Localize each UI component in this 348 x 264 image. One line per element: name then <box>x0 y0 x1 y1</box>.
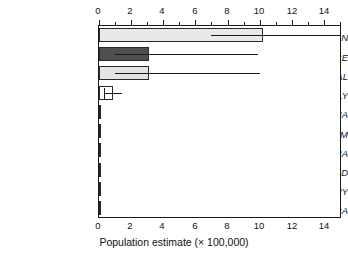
error-bar-italy <box>104 93 122 94</box>
bottom-tick-label-14: 14 <box>309 221 339 231</box>
error-cap-italy <box>104 88 105 99</box>
error-bar-spain <box>211 35 340 36</box>
bar-slovenia <box>99 143 101 157</box>
bottom-tick-label-12: 12 <box>277 221 307 231</box>
bar-germany <box>99 182 101 196</box>
population-bar-chart: 0 2 4 6 8 10 12 14 0 2 4 6 8 10 12 14 SP… <box>0 0 348 264</box>
bottom-tick-label-0: 0 <box>83 221 113 231</box>
bar-belgium <box>99 124 101 138</box>
bar-croatia <box>99 105 101 119</box>
top-tick-label-8: 8 <box>212 6 242 16</box>
top-tick-label-10: 10 <box>244 6 274 16</box>
top-tick-label-4: 4 <box>147 6 177 16</box>
top-tick-label-6: 6 <box>180 6 210 16</box>
bottom-tick-label-6: 6 <box>180 221 210 231</box>
bottom-tick-label-10: 10 <box>244 221 274 231</box>
bottom-tick-label-8: 8 <box>212 221 242 231</box>
bar-andorra <box>99 201 101 215</box>
top-tick-label-0: 0 <box>83 6 113 16</box>
bottom-tick-label-2: 2 <box>115 221 145 231</box>
bar-switzerland <box>99 163 101 177</box>
top-tick-label-14: 14 <box>309 6 339 16</box>
bottom-tick-label-4: 4 <box>147 221 177 231</box>
top-tick-label-12: 12 <box>277 6 307 16</box>
plot-area <box>98 25 341 218</box>
error-bar-france <box>115 54 258 55</box>
top-tick-label-2: 2 <box>115 6 145 16</box>
error-bar-portugal <box>115 73 260 74</box>
x-axis-title: Population estimate (× 100,000) <box>0 236 348 248</box>
